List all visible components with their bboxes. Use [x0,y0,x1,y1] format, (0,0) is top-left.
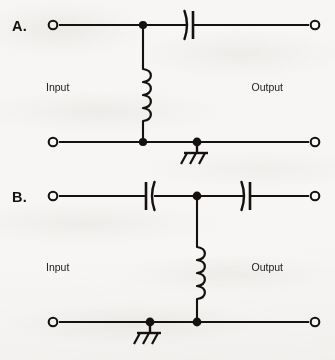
ground-hatch-1 [181,153,187,164]
circuit-b-output-label: Output [251,261,283,273]
circuit-b-top-junction-dot [193,192,202,201]
circuit-a-top-junction-dot [139,21,147,29]
circuit-a-input-bottom-terminal[interactable] [49,138,58,147]
circuit-b-label: B. [12,189,27,205]
circuit-b-output-bottom-terminal[interactable] [311,318,320,327]
circuit-a: A. [12,11,319,164]
circuit-b-series-capacitor-input [146,182,155,210]
circuit-b-input-label: Input [46,261,69,273]
ground-hatch-2 [143,333,149,344]
circuit-a-output-label: Output [251,81,283,93]
circuit-a-bottom-ground-junction-dot [193,138,202,147]
circuit-a-input-label: Input [46,81,69,93]
ground-hatch-3 [199,153,205,164]
circuit-a-shunt-inductor [143,69,151,121]
circuit-b-shunt-inductor [197,247,205,299]
circuit-b-input-top-terminal[interactable] [49,192,58,201]
inductor-coil-path [197,247,205,299]
circuit-a-bottom-inductor-junction-dot [139,138,147,146]
circuit-a-output-top-terminal[interactable] [311,21,320,30]
circuit-b-bottom-inductor-junction-dot [193,318,202,327]
circuit-a-input-top-terminal[interactable] [49,21,58,30]
inductor-coil-path [143,69,151,121]
circuit-b-input-bottom-terminal[interactable] [49,318,58,327]
circuit-a-label: A. [12,18,27,34]
circuit-schematic-canvas: A. [0,0,335,360]
ground-hatch-3 [152,333,158,344]
figure-root: A. [0,0,335,360]
circuit-a-output-bottom-terminal[interactable] [311,138,320,147]
circuit-b-output-top-terminal[interactable] [311,192,320,201]
ground-hatch-1 [134,333,140,344]
circuit-b: B. [12,182,319,344]
circuit-b-bottom-ground-junction-dot [146,318,155,327]
ground-hatch-2 [190,153,196,164]
